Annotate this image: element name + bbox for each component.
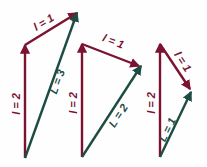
diagram-1-label-0: l = 2: [10, 93, 22, 115]
diagram-2-label-2: L = 2: [106, 102, 130, 130]
diagram-2-label-1: l = 1: [101, 31, 126, 50]
diagram-2-labels: l = 2l = 1L = 2: [67, 31, 130, 129]
diagram-2: [82, 44, 141, 157]
diagram-2-resultant: [82, 66, 141, 157]
figure-svg: l = 2l = 1L = 3l = 2l = 1L = 2l = 2l = 1…: [0, 0, 207, 167]
diagram-3-label-0: l = 2: [145, 92, 157, 114]
diagram-2-slanted-component: [82, 44, 139, 66]
diagram-3-labels: l = 2l = 1L = 1: [145, 49, 194, 143]
diagram-1-label-2: L = 3: [47, 68, 67, 96]
diagram-2-label-0: l = 2: [67, 92, 79, 114]
diagram-3-label-1: l = 1: [172, 49, 194, 74]
vector-diagram-figure: l = 2l = 1L = 3l = 2l = 1L = 2l = 2l = 1…: [0, 0, 207, 167]
